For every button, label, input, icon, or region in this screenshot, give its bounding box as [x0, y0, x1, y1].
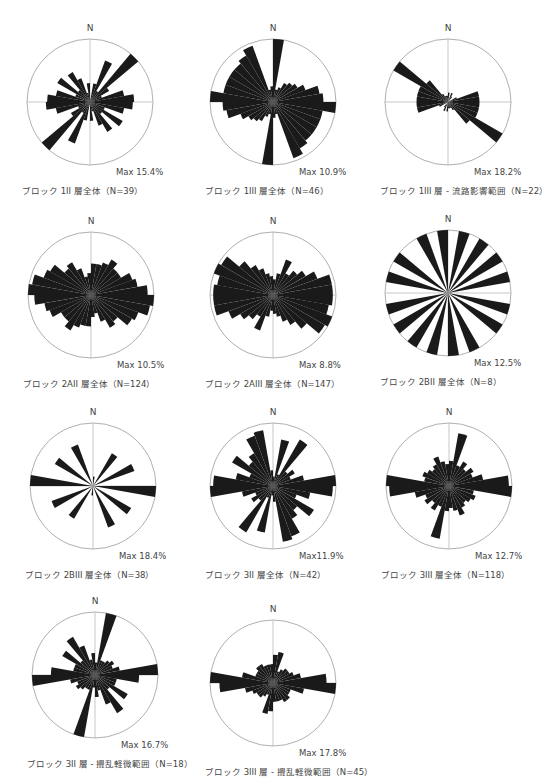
rose-diagram-caption: ブロック 3III 層 - 攪乱軽微範囲（N=45）: [205, 765, 373, 777]
max-percentage-label: Max 17.8%: [299, 748, 346, 758]
